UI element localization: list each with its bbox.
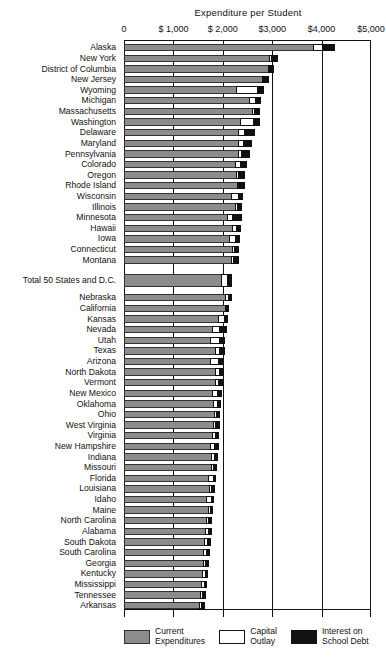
bar-segment-int — [203, 591, 205, 598]
legend-swatch-cap — [219, 630, 245, 644]
x-axis-tick-label: $ 2,000 — [208, 24, 238, 34]
bar-segment-int — [220, 368, 223, 375]
bar-segment-cur — [124, 538, 204, 545]
bar-segment-cur — [124, 581, 201, 588]
bar-segment-int — [218, 400, 221, 407]
bar-segment-int — [270, 65, 274, 72]
category-label: Idaho — [94, 495, 116, 504]
bar-segment-cur — [124, 591, 200, 598]
bar-segment-int — [208, 538, 211, 545]
category-label: North Carolina — [61, 516, 116, 525]
category-label: Nebraska — [79, 293, 116, 302]
category-label: Virginia — [87, 431, 116, 440]
category-label: West Virginia — [66, 421, 116, 430]
bar — [124, 496, 214, 503]
bar-segment-int — [214, 475, 216, 482]
category-label: South Carolina — [59, 548, 116, 557]
bar-segment-int — [242, 150, 250, 157]
x-axis-bottom-ticks — [124, 610, 371, 617]
bar-segment-cur — [124, 496, 206, 503]
bar — [124, 485, 215, 492]
category-label: Alaska — [90, 43, 116, 52]
category-label: Ohio — [98, 410, 116, 419]
legend-label: Capital Outlay — [250, 627, 277, 647]
bar-segment-cur — [124, 294, 225, 301]
bar-segment-cur — [124, 421, 213, 428]
category-label: Washington — [71, 118, 116, 127]
bar — [124, 246, 239, 253]
bar — [124, 225, 241, 232]
category-label: Illinois — [92, 203, 116, 212]
bar-segment-int — [211, 506, 214, 513]
bar-segment-cur — [124, 453, 211, 460]
x-axis-tick-label: 0 — [121, 24, 126, 34]
bar — [124, 538, 211, 545]
category-label: Hawaii — [90, 224, 116, 233]
bar-segment-int — [219, 379, 223, 386]
category-label: Colorado — [81, 160, 116, 169]
chart-title: Expenditure per Student — [0, 7, 386, 18]
bar-segment-int — [206, 560, 209, 567]
bar — [124, 182, 245, 189]
category-label: Arizona — [87, 357, 116, 366]
chart-legend: Current ExpendituresCapital OutlayIntere… — [124, 620, 386, 654]
bar-segment-int — [202, 602, 204, 609]
bar — [124, 129, 255, 136]
bar-segment-cur — [124, 368, 215, 375]
x-axis-tick-label: $3,000 — [258, 24, 286, 34]
bar-segment-cur — [124, 65, 268, 72]
bar-segment-cur — [124, 464, 211, 471]
bar — [124, 453, 218, 460]
category-label: Nevada — [86, 325, 116, 334]
bar-segment-int — [244, 140, 253, 147]
category-label: Iowa — [98, 234, 116, 243]
bar-segment-cur — [124, 55, 269, 62]
axis-tick — [272, 610, 273, 617]
bar-segment-int — [236, 235, 240, 242]
bar-segment-cap — [229, 235, 236, 242]
bar-segment-cur — [124, 549, 203, 556]
bar-segment-int — [323, 44, 335, 51]
category-label: Maine — [93, 506, 116, 515]
category-labels: AlaskaNew YorkDistrict of ColumbiaNew Je… — [0, 40, 120, 610]
category-label: Wyoming — [80, 86, 116, 95]
bar-segment-cur — [124, 171, 236, 178]
bar-segment-int — [227, 305, 230, 312]
bar — [124, 65, 274, 72]
bar-segment-cur — [124, 358, 210, 365]
axis-tick — [223, 610, 224, 617]
bar — [124, 214, 242, 221]
bar — [124, 326, 227, 333]
category-label: Minnesota — [76, 213, 116, 222]
category-label: Florida — [90, 474, 116, 483]
bar — [124, 150, 250, 157]
bar-segment-cur — [124, 256, 231, 263]
bar-segment-int — [209, 517, 213, 524]
bar-segment-int — [218, 390, 222, 397]
x-axis-tick-labels: 0$ 1,000$ 2,000$3,000$4,000$5,000 — [0, 24, 386, 38]
legend-swatch-int — [291, 630, 317, 644]
bar — [124, 337, 225, 344]
bar-segment-int — [234, 256, 238, 263]
category-label: New Hampshire — [55, 442, 116, 451]
bar-segment-cur — [124, 225, 232, 232]
bar — [124, 517, 212, 524]
bar — [124, 432, 219, 439]
bar-segment-cur — [124, 246, 232, 253]
x-axis-tick-label: $5,000 — [357, 24, 385, 34]
category-label: Montana — [83, 256, 116, 265]
bar — [124, 421, 220, 428]
bar-segment-int — [256, 97, 261, 104]
bar-segment-int — [229, 294, 232, 301]
bar — [124, 294, 232, 301]
bar-segment-int — [225, 315, 228, 322]
bar-segment-cur — [124, 76, 262, 83]
bar-segment-int — [258, 86, 264, 93]
bar-segment-int — [254, 118, 259, 125]
bar — [124, 602, 205, 609]
bar-segment-int — [238, 203, 242, 210]
bar-segment-cur — [124, 214, 227, 221]
x-axis-tick-label: $4,000 — [308, 24, 336, 34]
bar-segment-int — [214, 464, 217, 471]
bar — [124, 108, 260, 115]
